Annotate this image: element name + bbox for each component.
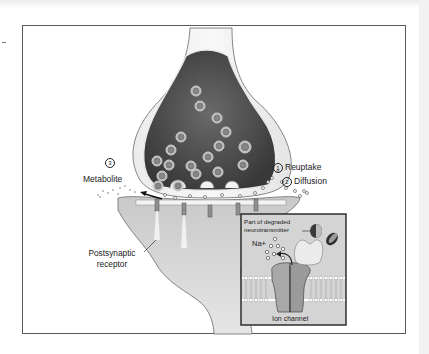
metabolite-text: Metabolite	[83, 175, 122, 184]
step-2-badge: 2	[282, 177, 292, 187]
receptor-label-line2: receptor	[78, 259, 146, 270]
metabolite-label: 3	[97, 158, 117, 168]
diffusion-text: Diffusion	[294, 176, 327, 186]
sodium-ion-label: Na+	[252, 240, 266, 248]
step-3-badge: 3	[105, 158, 115, 168]
degraded-label-line2: neurotransmitter	[244, 226, 290, 234]
reuptake-label: 1Reuptake	[273, 163, 321, 173]
diffusion-label: 2Diffusion	[282, 177, 327, 187]
bound-neurotransmitter	[294, 240, 322, 265]
reuptake-text: Reuptake	[285, 162, 321, 172]
ion-channel-label: Ion channel	[272, 315, 308, 322]
postsynaptic-receptor-label: Postsynaptic receptor	[78, 248, 146, 270]
presynaptic-terminal	[133, 28, 291, 198]
degraded-label-line1: Part of degraded	[244, 218, 290, 226]
step-1-badge: 1	[273, 163, 283, 173]
receptor-label-line1: Postsynaptic	[78, 248, 146, 259]
synapse-diagram	[0, 0, 429, 354]
metabolite-particles	[97, 185, 136, 198]
degraded-neurotransmitter-label: Part of degraded neurotransmitter	[244, 218, 290, 233]
